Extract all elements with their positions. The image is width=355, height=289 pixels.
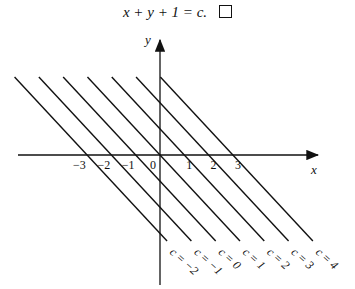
- x-tick-label: 1: [186, 158, 192, 172]
- level-line: [39, 77, 192, 241]
- level-line: [87, 77, 240, 241]
- level-line: [15, 77, 168, 241]
- x-tick-label: −3: [73, 158, 86, 172]
- x-tick-label: −2: [97, 158, 110, 172]
- level-lines: [15, 77, 313, 241]
- x-axis-label: x: [310, 162, 317, 177]
- line-label: c = 3: [289, 245, 317, 272]
- x-tick-label: 0: [150, 158, 156, 172]
- line-label: c = 4: [313, 245, 341, 272]
- x-tick-label: −1: [122, 158, 135, 172]
- line-label: c = 2: [264, 245, 292, 272]
- x-tick-labels: −3−2−10123: [73, 158, 241, 172]
- y-axis-label: y: [143, 32, 151, 47]
- level-line: [63, 77, 216, 241]
- line-label: c = 1: [240, 245, 268, 272]
- level-lines-diagram: x y −3−2−10123 c = −2c = −1c = 0c = 1c =…: [0, 0, 355, 289]
- x-tick-label: 2: [211, 158, 217, 172]
- line-labels: c = −2c = −1c = 0c = 1c = 2c = 3c = 4: [167, 245, 341, 278]
- x-tick-label: 3: [235, 158, 241, 172]
